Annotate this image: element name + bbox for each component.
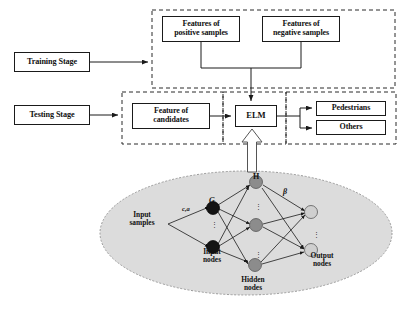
output-group-dashed-box [286,92,396,144]
hidden-nodes-ellipsis-lower: ⋮ [255,252,262,259]
block-arrow-network-to-elm [242,129,262,172]
hidden-nodes-label-line2: nodes [230,284,276,292]
input-samples-label-line2: samples [120,219,164,227]
pedestrians-output-box[interactable]: Pedestrians [316,101,386,116]
others-label: Others [340,123,363,132]
input-samples-label: Input samples [120,211,164,227]
pedestrians-label: Pedestrians [332,104,370,113]
elm-classifier-box[interactable]: ELM [235,105,277,127]
network-output-node [305,206,318,219]
output-nodes-label: Output nodes [300,252,344,268]
hidden-nodes-ellipsis-upper: ⋮ [255,204,262,211]
testing-stage-box[interactable]: Testing Stage [14,105,90,125]
output-nodes-ellipsis: ⋮ [313,232,320,239]
hidden-nodes-label: Hidden nodes [230,276,276,292]
testing-stage-label: Testing Stage [29,110,74,119]
positive-features-label-line2: positive samples [174,29,228,38]
input-nodes-label-line2: nodes [190,256,234,264]
negative-features-box[interactable]: Features of negative samples [262,16,340,42]
training-stage-label: Training Stage [27,57,77,66]
elm-label: ELM [246,111,265,121]
network-hidden-node [250,219,263,232]
positive-features-box[interactable]: Features of positive samples [162,16,240,42]
negative-features-label-line2: negative samples [273,29,329,38]
input-weight-symbol-ca: c,a [182,205,190,212]
output-nodes-label-line2: nodes [300,260,344,268]
network-hidden-node [249,259,262,272]
training-stage-box[interactable]: Training Stage [14,52,90,72]
others-output-box[interactable]: Others [316,120,386,135]
hidden-matrix-symbol-H: H [253,172,259,181]
candidate-features-box[interactable]: Feature of candidates [132,103,210,129]
input-nodes-label: Input nodes [190,248,234,264]
figure-canvas: Training Stage Testing Stage Features of… [0,0,407,309]
activation-function-symbol-G: G [209,196,215,205]
candidate-features-label-line2: candidates [153,116,188,125]
input-nodes-ellipsis: ⋮ [211,222,218,229]
output-weight-symbol-beta: β [283,187,287,196]
